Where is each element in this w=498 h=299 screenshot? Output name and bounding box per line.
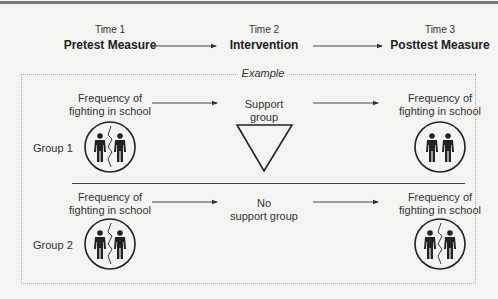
diagram-graphics <box>0 0 498 299</box>
fighting-people-icon <box>85 219 135 269</box>
triangle-icon <box>237 125 292 171</box>
peaceful-people-icon <box>415 122 465 172</box>
fighting-people-icon <box>415 219 465 269</box>
fighting-people-icon <box>85 122 135 172</box>
